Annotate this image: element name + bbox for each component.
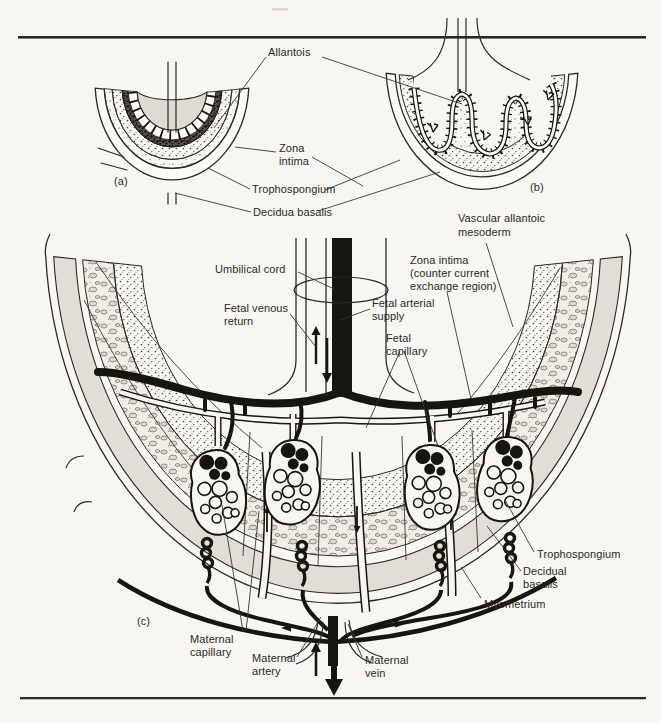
label-myometrium: Myometrium: [484, 598, 546, 610]
label-decidual-basalis-2: basalis: [523, 578, 558, 590]
label-maternal-artery-2: artery: [252, 665, 281, 677]
figure-page: Allantois Zona intima Trophospongium Dec…: [0, 0, 661, 723]
label-maternal-capillary: Maternal: [190, 633, 234, 645]
maternal-vein-down-arrow-icon: [325, 640, 343, 696]
label-fetal-venous-return-2: return: [224, 315, 253, 327]
label-umbilical-cord: Umbilical cord: [215, 263, 285, 275]
fetal-venous-up-arrow-icon: [312, 326, 321, 364]
maternal-artery-up-arrow-icon: [311, 642, 321, 676]
bottom-rule: [20, 697, 646, 699]
label-fetal-capillary-2: capillary: [386, 345, 428, 357]
label-maternal-artery: Maternal: [252, 652, 296, 664]
label-maternal-vein-2: vein: [365, 667, 386, 679]
label-zona-intima-counter-3: exchange region): [410, 280, 497, 292]
label-fetal-arterial-supply-2: supply: [372, 310, 405, 322]
label-zona-intima-counter-2: (counter current: [410, 267, 489, 279]
fetal-artery-trunk: [332, 238, 352, 398]
label-trophospongium-c: Trophospongium: [537, 548, 621, 560]
label-vascular-allantoic-mesoderm-2: mesoderm: [458, 226, 511, 238]
panel-b-drawing: [386, 18, 578, 189]
label-zona-intima-2: intima: [279, 155, 310, 167]
label-decidual-basalis: Decidual: [523, 565, 567, 577]
label-maternal-vein: Maternal: [365, 654, 409, 666]
label-vascular-allantoic-mesoderm: Vascular allantoic: [458, 212, 546, 224]
label-fetal-venous-return: Fetal venous: [224, 302, 289, 314]
label-maternal-capillary-2: capillary: [190, 646, 232, 658]
fetal-arterial-down-arrow-icon: [322, 338, 332, 383]
panel-c-drawing: [45, 234, 630, 696]
top-rule: [18, 36, 646, 39]
label-allantois: Allantois: [268, 46, 311, 58]
panel-a-tag: (a): [114, 175, 128, 187]
placenta-figure: Allantois Zona intima Trophospongium Dec…: [0, 0, 661, 723]
label-fetal-arterial-supply: Fetal arterial: [372, 297, 435, 309]
label-zona-intima: Zona: [279, 142, 305, 154]
scan-artifact-mark: [272, 8, 288, 10]
panel-c-tag: (c): [137, 615, 150, 627]
label-decidua-basalis-top: Decidua basalis: [253, 206, 333, 218]
panel-b-tag: (b): [530, 181, 544, 193]
label-fetal-capillary: Fetal: [386, 332, 411, 344]
label-zona-intima-counter: Zona intima: [410, 254, 469, 266]
label-trophospongium-top: Trophospongium: [252, 183, 336, 195]
cut-vessel-stubs: [66, 456, 92, 512]
